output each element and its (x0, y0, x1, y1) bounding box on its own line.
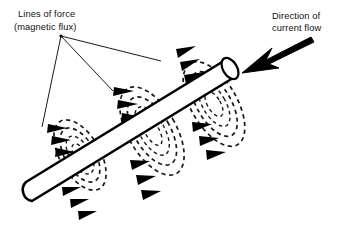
flux-label: Lines of force (magnetic flux) (14, 9, 76, 32)
flux-arrow (192, 122, 212, 132)
flux-arrow (62, 187, 81, 196)
flux-arrow (136, 175, 156, 185)
flux-arrow (176, 46, 196, 58)
flux-arrow (180, 59, 200, 71)
flux-label-line2: (magnetic flux) (14, 22, 76, 32)
flux-arrow (51, 136, 71, 145)
flux-arrow (78, 211, 97, 220)
current-label-line2: current flow (272, 23, 321, 33)
flux-arrow (141, 190, 161, 200)
current-flow-arrow (242, 37, 314, 73)
current-label-line1: Direction of (272, 11, 321, 21)
flux-arrow (130, 160, 150, 170)
flux-arrow (70, 199, 89, 208)
diagram-canvas: Lines of force (magnetic flux) Direction… (0, 0, 338, 244)
flux-arrow (113, 87, 134, 96)
current-label: Direction of current flow (272, 11, 321, 33)
magnetic-flux-diagram: Lines of force (magnetic flux) Direction… (0, 0, 338, 244)
flux-arrow (117, 100, 138, 109)
flux-arrow (206, 150, 226, 160)
flux-label-line1: Lines of force (18, 9, 75, 19)
